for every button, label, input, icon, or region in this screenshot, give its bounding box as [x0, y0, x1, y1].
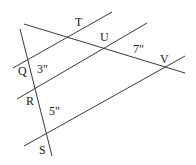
measure-label-rs: 5" — [49, 104, 60, 118]
measure-label-uv: 7" — [133, 42, 144, 56]
parallel-lines-diagram: T U 7" V Q 3" R 5" S — [0, 0, 196, 165]
measure-label-qr: 3" — [37, 62, 48, 76]
point-label-t: T — [75, 15, 83, 29]
transversal-qs — [20, 29, 52, 156]
parallel-line-bottom — [24, 56, 185, 146]
point-label-s: S — [39, 143, 46, 157]
point-label-r: R — [26, 94, 34, 108]
point-label-q: Q — [18, 64, 27, 78]
point-label-v: V — [160, 52, 169, 66]
point-label-u: U — [100, 30, 109, 44]
